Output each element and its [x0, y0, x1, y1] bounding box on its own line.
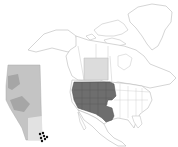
occurrence-dot [43, 135, 45, 137]
distribution-map [0, 0, 178, 147]
occurrence-dot [41, 140, 43, 142]
alaska-outline [28, 30, 78, 52]
occurrence-dot [42, 132, 44, 134]
occurrence-dot [39, 133, 41, 135]
alberta-elevation-light [28, 116, 42, 140]
occurrence-dot [40, 137, 42, 139]
highlighted-provinces [84, 58, 108, 80]
alberta-inset [6, 65, 48, 142]
greenland-outline [128, 4, 172, 50]
occurrence-dot [46, 136, 48, 138]
occurrence-dot [44, 138, 46, 140]
north-america-map [0, 0, 178, 147]
